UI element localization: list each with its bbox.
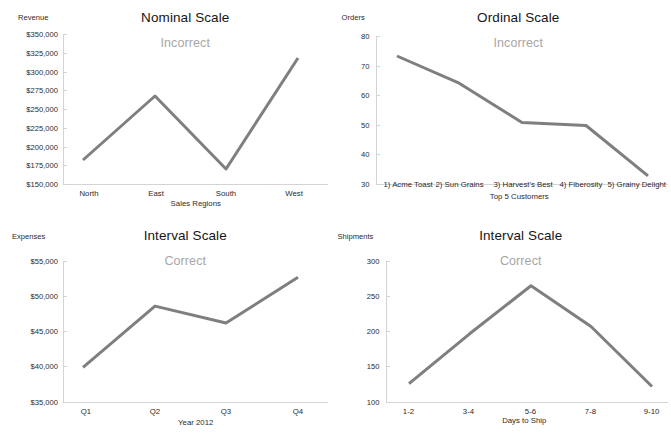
x-axis-title-interval-shipments: Days to Ship	[386, 416, 664, 425]
x-tick-label: 9-10	[644, 407, 660, 416]
plot-area-interval-shipments: 300 250 200 150 100 1-2 3-4 5-6 7-8 9-10	[336, 219, 671, 436]
x-tick-label: 3-4	[463, 407, 474, 416]
x-tick-label: West	[285, 189, 303, 198]
series-line-interval-shipments	[336, 219, 671, 436]
panel-ordinal: Ordinal Scale Incorrect Orders 80 70 60 …	[336, 0, 671, 219]
panel-interval-expenses: Interval Scale Correct Expenses $55,000 …	[0, 219, 336, 437]
x-tick-label: North	[79, 189, 98, 198]
x-axis-title-ordinal: Top 5 Customers	[376, 192, 664, 201]
plot-area-ordinal: 80 70 60 50 40 30 1) Acme Toast 2) Sun G…	[336, 0, 671, 218]
x-axis-title-nominal: Sales Regions	[63, 199, 329, 208]
x-tick-label: 2) Sun Grains	[436, 180, 484, 189]
x-tick-label: 5) Grainy Delight	[608, 180, 667, 189]
x-tick-label: East	[148, 189, 164, 198]
chart-grid: Nominal Scale Incorrect Revenue $350,000…	[0, 0, 671, 437]
panel-nominal: Nominal Scale Incorrect Revenue $350,000…	[0, 0, 336, 219]
panel-interval-shipments: Interval Scale Correct Shipments 300 250…	[336, 219, 671, 437]
x-tick-label: Q4	[293, 407, 303, 416]
x-tick-label: 4) Fiberosity	[560, 180, 603, 189]
x-tick-label: 1-2	[403, 407, 414, 416]
series-line-nominal	[0, 0, 335, 218]
x-axis-title-interval-expenses: Year 2012	[63, 418, 329, 427]
x-tick-label: 1) Acme Toast	[384, 180, 433, 189]
plot-area-nominal: $350,000 $325,000 $300,000 $275,000 $250…	[0, 0, 335, 218]
x-tick-label: Q2	[150, 407, 160, 416]
plot-area-interval-expenses: $55,000 $50,000 $45,000 $40,000 $35,000 …	[0, 219, 335, 436]
series-line-interval-expenses	[0, 219, 335, 436]
x-tick-label: Q3	[221, 407, 231, 416]
x-tick-label: 7-8	[585, 407, 596, 416]
x-tick-label: 5-6	[525, 407, 536, 416]
x-tick-label: 3) Harvest's Best	[494, 180, 553, 189]
x-tick-label: South	[216, 189, 236, 198]
x-tick-label: Q1	[81, 407, 91, 416]
